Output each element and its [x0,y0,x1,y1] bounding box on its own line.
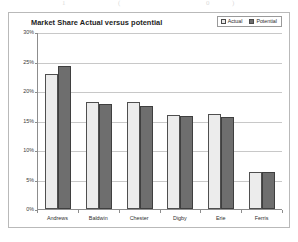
bar-group [86,33,112,209]
bar-group [249,33,275,209]
legend-item-potential: Potential [249,19,277,24]
bar-group [208,33,234,209]
x-axis-label-baldwin: Baldwin [78,216,119,221]
x-axis-tick [200,210,201,213]
x-axis-tick [78,210,79,213]
x-axis-tick [282,210,283,213]
legend-label-actual: Actual [228,19,243,24]
chart-title: Market Share Actual versus potential [31,18,162,27]
x-axis-tick [241,210,242,213]
bar-actual-andrews [45,74,58,209]
bar-group [127,33,153,209]
bar-actual-ferris [249,172,262,209]
bar-potential-ferris [262,172,275,209]
y-axis-tick-label: 10% [23,148,34,153]
y-axis-tick-label: 20% [23,89,34,94]
y-axis-tick-label: 0% [26,207,34,212]
chart-legend: Actual Potential [217,16,282,27]
bar-group [45,33,71,209]
x-axis: AndrewsBaldwinChesterDigbyErieFerris [37,210,282,232]
y-axis-tick-label: 25% [23,60,34,65]
legend-item-actual: Actual [221,19,243,24]
x-axis-labels: AndrewsBaldwinChesterDigbyErieFerris [37,216,282,221]
bar-actual-baldwin [86,102,99,209]
y-axis-tick-label: 30% [23,30,34,35]
page-artifact-fragment: 1 [62,0,66,7]
bar-potential-digby [180,116,193,209]
x-axis-label-erie: Erie [200,216,241,221]
page-artifact-fragment: ) [232,0,234,7]
bar-potential-chester [140,106,153,209]
x-axis-label-andrews: Andrews [37,216,78,221]
x-axis-tick [37,210,38,213]
x-axis-tick [160,210,161,213]
x-axis-label-digby: Digby [159,216,200,221]
bar-actual-erie [208,114,221,209]
bar-actual-digby [167,115,180,209]
y-axis-tick-label: 15% [23,119,34,124]
bar-actual-chester [127,102,140,209]
x-axis-label-chester: Chester [119,216,160,221]
y-axis-tick-label: 5% [26,178,34,183]
bar-group [167,33,193,209]
page-artifact-fragment: 0 [206,0,210,7]
bar-potential-andrews [58,66,71,209]
page-artifact-fragment: ( [118,0,120,7]
legend-swatch-potential-icon [249,19,254,24]
bar-series-container [38,33,282,209]
bar-potential-baldwin [99,104,112,209]
legend-label-potential: Potential [256,19,277,24]
page-artifacts: 1 ( 0 ) [0,0,298,11]
x-axis-tick [119,210,120,213]
x-axis-label-ferris: Ferris [241,216,282,221]
legend-swatch-actual-icon [221,19,226,24]
plot-area: 30%25%20%15%10%5%0% [37,33,282,210]
bar-potential-erie [221,117,234,209]
chart-container: Market Share Actual versus potential Act… [8,12,290,228]
